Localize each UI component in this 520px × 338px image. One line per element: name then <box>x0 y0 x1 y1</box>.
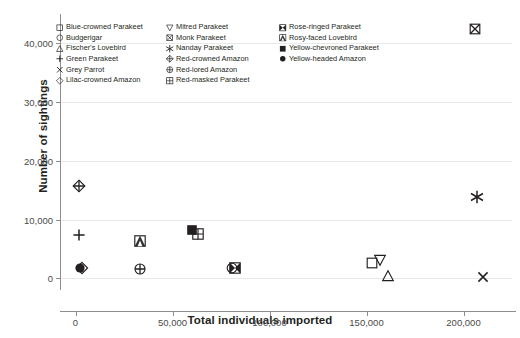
data-point-mitred-parakeet <box>372 252 388 268</box>
legend-marker-icon <box>53 65 66 75</box>
x-tick-mark <box>76 312 77 316</box>
data-point-nanday-parakeet <box>469 189 485 205</box>
y-tick-label: 0 <box>48 273 53 284</box>
legend-label: Nanday Parakeet <box>176 43 233 53</box>
legend-label: Red-crowned Amazon <box>176 54 249 64</box>
x-tick-mark <box>173 312 174 316</box>
legend-label: Lilac-crowned Amazon <box>66 75 140 85</box>
legend-marker-icon <box>163 43 176 53</box>
legend-marker-icon <box>53 33 66 43</box>
legend-marker-icon <box>276 33 289 43</box>
y-tick-mark <box>56 220 60 221</box>
legend-label: Mitred Parakeet <box>176 22 228 32</box>
legend-marker-icon <box>276 43 289 53</box>
legend-label: Yellow-chevroned Parakeet <box>289 43 379 53</box>
legend-marker-icon <box>53 22 66 32</box>
legend-label: Budgerigar <box>66 33 102 43</box>
legend-label: Blue-crowned Parakeet <box>66 22 143 32</box>
legend-label: Green Parakeet <box>66 54 118 64</box>
legend-marker-icon <box>276 22 289 32</box>
x-tick-mark <box>367 312 368 316</box>
legend-marker-icon <box>163 22 176 32</box>
legend-item-yellow-headed-amazon: Yellow-headed Amazon <box>276 54 393 65</box>
data-point-grey-parrot <box>475 269 491 285</box>
gridline-y-10000 <box>60 220 512 221</box>
x-tick-label: 150,000 <box>349 317 383 328</box>
gridline-y-20000 <box>60 161 512 162</box>
y-tick-mark <box>56 161 60 162</box>
legend-label: Fischer's Lovebird <box>66 43 126 53</box>
y-tick-label: 30,000 <box>24 97 53 108</box>
legend-label: Monk Parakeet <box>176 33 226 43</box>
legend-label: Red-masked Parakeet <box>176 75 250 85</box>
legend-marker-icon <box>163 65 176 75</box>
legend-label: Yellow-headed Amazon <box>289 54 366 64</box>
legend-marker-icon <box>276 54 289 64</box>
legend-item-rose-ringed-parakeet: Rose-ringed Parakeet <box>276 22 393 33</box>
legend-item-grey-parrot: Grey Parrot <box>53 64 163 75</box>
legend-item-lilac-crowned-amazon: Lilac-crowned Amazon <box>53 75 163 86</box>
legend-item-fischer-s-lovebird: Fischer's Lovebird <box>53 43 163 54</box>
y-tick-label: 10,000 <box>24 214 53 225</box>
data-point-red-crowned-amazon <box>71 178 87 194</box>
legend-item-green-parakeet: Green Parakeet <box>53 54 163 65</box>
legend-label: Rose-ringed Parakeet <box>289 22 361 32</box>
y-tick-mark <box>56 102 60 103</box>
legend-marker-icon <box>53 54 66 64</box>
legend-item-blue-crowned-parakeet: Blue-crowned Parakeet <box>53 22 163 33</box>
scatter-chart-figure: Number of sightings Total individuals im… <box>0 0 520 338</box>
legend-label: Grey Parrot <box>66 65 104 75</box>
legend: Blue-crowned ParakeetBudgerigarFischer's… <box>53 22 393 86</box>
x-tick-label: 0 <box>73 317 78 328</box>
legend-item-budgerigar: Budgerigar <box>53 33 163 44</box>
legend-column-1: Blue-crowned ParakeetBudgerigarFischer's… <box>53 22 163 86</box>
legend-item-red-masked-parakeet: Red-masked Parakeet <box>163 75 276 86</box>
data-point-green-parakeet <box>71 227 87 243</box>
y-tick-mark <box>56 278 60 279</box>
gridline-y-0 <box>60 278 512 279</box>
data-point-monk-parakeet <box>467 21 483 37</box>
legend-item-yellow-chevroned-parakeet: Yellow-chevroned Parakeet <box>276 43 393 54</box>
data-point-yellow-chevroned-parakeet <box>184 222 200 238</box>
data-point-fischer-s-lovebird <box>380 268 396 284</box>
y-tick-label: 20,000 <box>24 155 53 166</box>
x-axis-line <box>60 311 516 312</box>
legend-marker-icon <box>53 75 66 85</box>
legend-marker-icon <box>163 33 176 43</box>
legend-item-rosy-faced-lovebird: Rosy-faced Lovebird <box>276 33 393 44</box>
legend-item-monk-parakeet: Monk Parakeet <box>163 33 276 44</box>
data-point-red-lored-amazon <box>132 261 148 277</box>
x-tick-mark <box>464 312 465 316</box>
x-tick-mark <box>270 312 271 316</box>
legend-label: Rosy-faced Lovebird <box>289 33 357 43</box>
legend-item-mitred-parakeet: Mitred Parakeet <box>163 22 276 33</box>
x-tick-label: 200,000 <box>446 317 480 328</box>
legend-column-2: Mitred ParakeetMonk ParakeetNanday Parak… <box>163 22 276 86</box>
legend-column-3: Rose-ringed ParakeetRosy-faced LovebirdY… <box>276 22 393 86</box>
data-point-rose-ringed-parakeet <box>227 260 243 276</box>
legend-item-red-lored-amazon: Red-lored Amazon <box>163 64 276 75</box>
data-point-rosy-faced-lovebird <box>132 233 148 249</box>
legend-item-red-crowned-amazon: Red-crowned Amazon <box>163 54 276 65</box>
legend-marker-icon <box>163 75 176 85</box>
legend-marker-icon <box>53 43 66 53</box>
y-tick-label: 40,000 <box>24 38 53 49</box>
legend-item-nanday-parakeet: Nanday Parakeet <box>163 43 276 54</box>
data-point-yellow-headed-amazon <box>72 260 88 276</box>
x-tick-label: 50,000 <box>158 317 187 328</box>
legend-marker-icon <box>163 54 176 64</box>
x-tick-label: 100,000 <box>252 317 286 328</box>
gridline-y-30000 <box>60 102 512 103</box>
legend-label: Red-lored Amazon <box>176 65 237 75</box>
